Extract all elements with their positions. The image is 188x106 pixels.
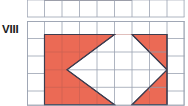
grid-background — [27, 0, 185, 17]
current-item-panel — [27, 21, 185, 106]
previous-item-grid — [27, 0, 185, 18]
previous-item-panel — [27, 0, 185, 18]
figure-root: VIII — [0, 0, 188, 106]
current-item-grid — [27, 21, 185, 106]
item-number-label: VIII — [2, 22, 25, 36]
